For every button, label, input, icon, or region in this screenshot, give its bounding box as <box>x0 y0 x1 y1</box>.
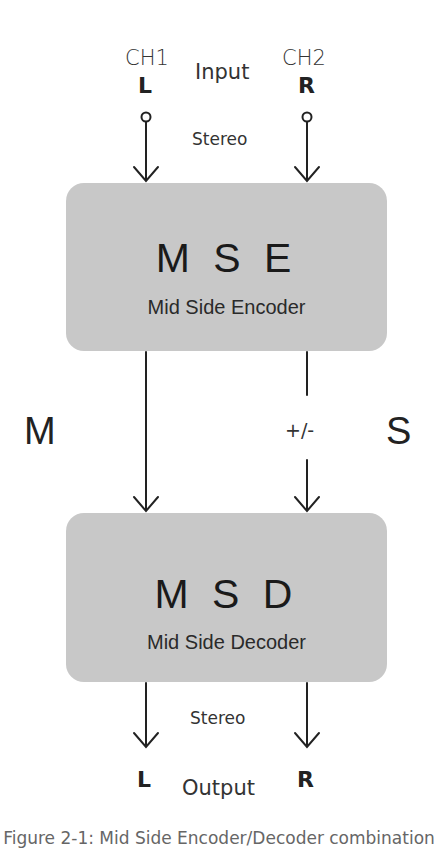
input-l-terminal-icon <box>142 113 151 122</box>
side-polarity-label: +/- <box>285 421 314 440</box>
mid-signal-label: M <box>24 412 56 450</box>
decoder-title: M S D <box>66 571 387 618</box>
input-left-label: L <box>138 75 152 97</box>
output-left-label: L <box>137 769 151 791</box>
ch1-label: CH1 <box>125 48 169 69</box>
ch2-label: CH2 <box>282 48 326 69</box>
output-stereo-label: Stereo <box>190 710 245 727</box>
encoder-title: M S E <box>66 235 387 282</box>
decoder-subtitle: Mid Side Decoder <box>66 631 387 654</box>
figure-caption: Figure 2-1: Mid Side Encoder/Decoder com… <box>0 828 438 848</box>
input-right-label: R <box>298 75 315 97</box>
input-title: Input <box>195 62 249 83</box>
input-r-terminal-icon <box>303 113 312 122</box>
output-title: Output <box>182 778 255 799</box>
side-signal-label: S <box>386 412 411 450</box>
mid-side-encoder-block: M S E Mid Side Encoder <box>66 183 387 351</box>
output-right-label: R <box>297 769 314 791</box>
encoder-subtitle: Mid Side Encoder <box>66 296 387 319</box>
input-stereo-label: Stereo <box>192 131 247 148</box>
mid-side-decoder-block: M S D Mid Side Decoder <box>66 513 387 682</box>
